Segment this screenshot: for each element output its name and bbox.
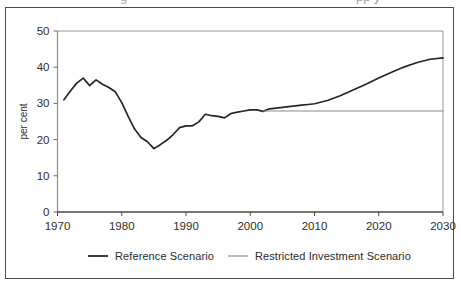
chart-legend: Reference ScenarioRestricted Investment … — [88, 250, 411, 262]
x-tick-label: 2020 — [366, 220, 392, 232]
x-tick-label: 2000 — [237, 220, 263, 232]
y-axis-title-text: per cent — [18, 103, 29, 139]
y-tick-label: 10 — [37, 170, 50, 182]
y-axis-tick-labels: 01020304050 — [37, 25, 50, 218]
line-chart: 01020304050 1970198019902000201020202030… — [0, 0, 461, 286]
y-tick-label: 40 — [37, 61, 50, 73]
axis-ticks — [54, 31, 444, 216]
y-tick-label: 0 — [43, 206, 49, 218]
x-axis-tick-labels: 1970198019902000201020202030 — [45, 220, 456, 232]
chart-container: 01020304050 1970198019902000201020202030… — [0, 0, 461, 286]
data-series-lines — [64, 58, 443, 149]
y-tick-label: 50 — [37, 25, 50, 37]
x-tick-label: 1990 — [173, 220, 199, 232]
x-tick-label: 1970 — [45, 220, 71, 232]
series-line — [64, 58, 443, 149]
x-tick-label: 1980 — [109, 220, 135, 232]
y-tick-label: 30 — [37, 97, 50, 109]
legend-item-label: Reference Scenario — [115, 250, 214, 262]
y-tick-label: 20 — [37, 134, 50, 146]
y-axis-title: per cent — [18, 103, 29, 139]
legend-item-label: Restricted Investment Scenario — [255, 250, 411, 262]
plot-frame — [58, 31, 444, 212]
x-tick-label: 2030 — [430, 220, 456, 232]
x-tick-label: 2010 — [302, 220, 328, 232]
